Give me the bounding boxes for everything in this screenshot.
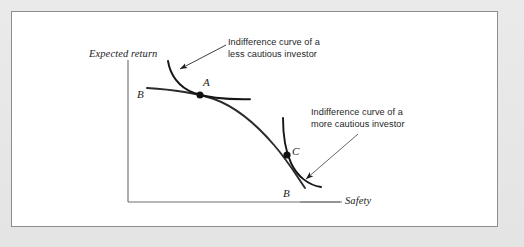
curve-label-b-upper: B [137,88,144,101]
annotation-less-cautious-line2: less cautious investor [228,48,320,60]
figure-root: Expected return Safety B B A C Indiffere… [0,0,524,247]
annotation-more-cautious-line2: more cautious investor [311,118,405,130]
annotation-less-cautious-investor: Indifference curve of a less cautious in… [228,36,320,61]
opportunity-locus-curve [147,88,305,188]
point-label-a: A [203,76,210,89]
annotation-less-cautious-line1: Indifference curve of a [228,36,320,48]
curve-label-b-lower: B [283,187,290,200]
tangency-point-a-marker [197,92,204,99]
x-axis-label: Safety [345,195,371,208]
leader-line-more-cautious [306,134,358,179]
annotation-more-cautious-line1: Indifference curve of a [311,106,405,118]
leader-line-less-cautious [180,45,226,69]
tangency-point-c-marker [283,151,290,158]
y-axis-label: Expected return [89,48,157,61]
axes-group [128,60,340,202]
point-label-c: C [292,145,299,158]
annotation-more-cautious-investor: Indifference curve of a more cautious in… [311,106,405,131]
